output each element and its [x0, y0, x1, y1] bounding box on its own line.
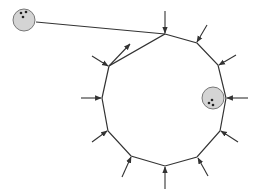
inward-arrow-icon [198, 158, 208, 176]
tether-segment [36, 22, 165, 34]
particle-dot-icon [211, 99, 214, 102]
inward-arrow-icon [219, 55, 236, 65]
outward-arrow-icon [109, 44, 130, 66]
inward-arrow-icon [92, 56, 108, 66]
tether-line [36, 22, 165, 34]
inward-arrow-icon [197, 25, 207, 42]
inward-arrow-icon [122, 157, 131, 177]
particle-dot-icon [212, 104, 215, 107]
inward-arrow-icon [221, 131, 238, 142]
diagram-canvas [0, 0, 261, 192]
particle-dot-icon [208, 102, 211, 105]
tethered-particle [13, 9, 35, 31]
particle-dot-icon [20, 12, 23, 15]
particle-dot-icon [22, 16, 25, 19]
edge-particle [202, 87, 224, 109]
particle-circle-icon [13, 9, 35, 31]
particles [13, 9, 224, 109]
particle-dot-icon [25, 11, 28, 14]
inward-arrow-icon [92, 131, 107, 142]
